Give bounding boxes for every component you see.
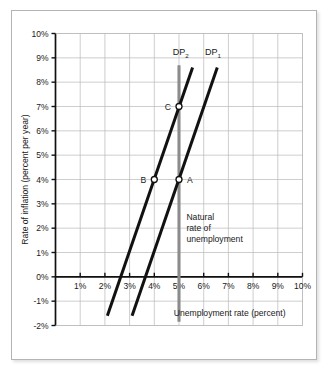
x-axis-tick-labels: 1%2%3%4%5%6%7%8%9%10% [74, 281, 311, 291]
y-axis-tick-label: 2% [36, 223, 49, 233]
x-axis-tick-label: 2% [99, 281, 112, 291]
point-marker-B [151, 177, 157, 183]
y-axis-tick-label: 4% [36, 175, 49, 185]
phillips-curves [107, 68, 217, 316]
point-label-A: A [187, 175, 193, 185]
y-axis-tick-label: 6% [36, 126, 49, 136]
point-marker-A [176, 177, 182, 183]
y-axis-tick-label: 3% [36, 199, 49, 209]
plot-wrapper: 1%2%3%4%5%6%7%8%9%10% 10%9%8%7%6%5%4%3%2… [0, 0, 335, 372]
point-label-C: C [165, 102, 171, 112]
x-axis-tick-label: 4% [148, 281, 161, 291]
chart-annotations: Naturalrate ofunemployment [186, 212, 243, 244]
curve-labels: DP2DP1 [173, 47, 222, 58]
point-label-B: B [141, 175, 147, 185]
y-axis-tick-label: 9% [36, 53, 49, 63]
point-marker-C [176, 104, 182, 110]
x-axis-tick-label: 6% [198, 281, 211, 291]
x-axis-tick-label: 8% [247, 281, 260, 291]
curve-label-subscript: 1 [217, 52, 221, 59]
y-axis-tick-label: 7% [36, 102, 49, 112]
annotation-line: unemployment [186, 234, 243, 244]
y-axis-title: Rate of inflation (percent per year) [20, 114, 30, 245]
curve-label-DP2: DP2 [173, 47, 190, 58]
phillips-curve-chart: 1%2%3%4%5%6%7%8%9%10% 10%9%8%7%6%5%4%3%2… [0, 0, 335, 372]
curve-label-subscript: 2 [185, 52, 189, 59]
y-axis-tick-label: 5% [36, 150, 49, 160]
y-axis-tick-label: 0% [36, 272, 49, 282]
annotation-line: Natural [186, 212, 214, 222]
y-axis-tick-label: -2% [33, 321, 49, 331]
annotation-line: rate of [186, 223, 211, 233]
y-axis-tick-labels: 10%9%8%7%6%5%4%3%2%1%0%-1%-2% [31, 29, 48, 331]
y-axis-tick-label: 10% [31, 29, 48, 39]
y-axis-tick-label: 8% [36, 77, 49, 87]
curve-DP1 [132, 68, 217, 316]
y-axis-tick-label: 1% [36, 248, 49, 258]
x-axis-tick-label: 1% [74, 281, 87, 291]
x-axis-title: Unemployment rate (percent) [174, 308, 286, 318]
x-axis-tick-label: 3% [123, 281, 136, 291]
x-axis-tick-label: 10% [294, 281, 311, 291]
x-axis-tick-label: 9% [272, 281, 285, 291]
y-axis-tick-label: -1% [33, 296, 49, 306]
curve-label-DP1: DP1 [205, 47, 222, 58]
chart-figure: 1%2%3%4%5%6%7%8%9%10% 10%9%8%7%6%5%4%3%2… [0, 0, 335, 372]
x-axis-tick-label: 7% [222, 281, 235, 291]
